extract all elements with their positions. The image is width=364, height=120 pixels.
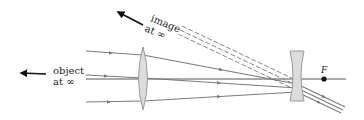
virtual-ray-extensions xyxy=(178,26,300,90)
intermediate-rays xyxy=(143,55,297,101)
outgoing-rays xyxy=(297,84,345,113)
eyepiece-concave-lens xyxy=(290,51,304,101)
image-direction-arrow-icon xyxy=(118,12,143,25)
incoming-rays xyxy=(86,51,143,102)
object-direction-arrow-icon xyxy=(21,73,46,74)
focal-point-label: F xyxy=(320,65,328,75)
object-label-line2: at ∞ xyxy=(53,76,75,87)
object-label-line1: object xyxy=(53,65,84,76)
telescope-diagram: F object at ∞ image at ∞ xyxy=(0,0,364,120)
focal-point-dot xyxy=(321,76,326,81)
